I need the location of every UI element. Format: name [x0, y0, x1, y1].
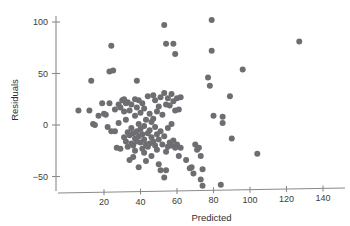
data-point — [227, 93, 233, 99]
data-point — [123, 117, 129, 123]
data-point — [143, 158, 149, 164]
data-point — [139, 131, 145, 137]
y-tick-label--50: −50 — [33, 172, 48, 182]
x-axis-title: Predicted — [191, 212, 231, 223]
y-tick-label-50: 50 — [38, 69, 48, 79]
data-point — [127, 108, 133, 114]
data-point — [205, 75, 211, 81]
data-point — [169, 121, 175, 127]
data-point — [178, 145, 184, 151]
data-point — [145, 93, 151, 99]
data-point — [141, 106, 147, 112]
data-point — [220, 114, 226, 120]
data-point — [132, 113, 138, 119]
data-point — [200, 166, 206, 172]
data-point — [92, 122, 98, 128]
data-point — [159, 112, 165, 118]
y-axis-title: Residuals — [9, 79, 20, 121]
data-point — [161, 90, 167, 96]
data-point — [209, 48, 215, 54]
data-point — [159, 142, 165, 148]
y-tick-label-0: 0 — [43, 120, 48, 130]
data-point — [211, 113, 217, 119]
data-point — [148, 153, 154, 159]
data-point — [161, 22, 167, 28]
data-point — [209, 17, 215, 23]
data-point — [96, 113, 102, 119]
data-point — [154, 147, 160, 153]
data-point — [130, 154, 136, 160]
data-point — [176, 107, 182, 113]
data-point — [110, 67, 116, 73]
data-point — [116, 120, 122, 126]
data-point — [121, 109, 127, 115]
data-point — [156, 161, 162, 167]
data-point — [163, 149, 169, 155]
data-point — [103, 112, 109, 118]
data-point — [123, 138, 129, 144]
data-point — [136, 121, 142, 127]
chart-canvas: 20406080100120140−50050100PredictedResid… — [0, 0, 350, 226]
x-tick-label-100: 100 — [242, 195, 257, 205]
data-point — [141, 150, 147, 156]
data-point — [139, 100, 145, 106]
x-tick-label-20: 20 — [99, 197, 109, 207]
data-point — [156, 103, 162, 109]
data-point — [150, 92, 156, 98]
data-point — [207, 83, 213, 89]
data-points — [75, 17, 302, 189]
data-point — [296, 39, 302, 45]
data-point — [176, 153, 182, 159]
data-point — [161, 133, 167, 139]
data-point — [169, 91, 175, 97]
x-axis-line — [58, 188, 345, 193]
data-point — [152, 124, 158, 130]
data-point — [229, 135, 235, 141]
data-point — [154, 109, 160, 115]
data-point — [134, 104, 140, 110]
data-point — [190, 170, 196, 176]
data-point — [141, 136, 147, 142]
data-point — [198, 153, 204, 159]
data-point — [163, 167, 169, 173]
data-point — [147, 111, 153, 117]
y-tick-label-100: 100 — [33, 17, 48, 27]
data-point — [147, 127, 153, 133]
data-point — [117, 146, 123, 152]
x-tick-label-40: 40 — [135, 197, 145, 207]
x-tick-label-80: 80 — [208, 195, 218, 205]
data-point — [161, 175, 167, 181]
data-point — [108, 43, 114, 49]
data-point — [99, 100, 105, 106]
data-point — [196, 145, 202, 151]
data-point — [141, 123, 147, 129]
data-point — [106, 100, 112, 106]
residual-scatter-plot: 20406080100120140−50050100PredictedResid… — [0, 0, 350, 226]
data-point — [136, 164, 142, 170]
data-point — [200, 183, 206, 189]
data-point — [220, 120, 226, 126]
data-point — [150, 116, 156, 122]
data-point — [163, 41, 169, 47]
data-point — [170, 41, 176, 47]
x-tick-label-140: 140 — [315, 193, 330, 203]
x-tick-label-60: 60 — [172, 196, 182, 206]
data-point — [86, 108, 92, 114]
data-point — [172, 51, 178, 57]
data-point — [183, 157, 189, 163]
data-point — [178, 94, 184, 100]
data-point — [254, 151, 260, 157]
data-point — [132, 148, 138, 154]
data-point — [240, 66, 246, 72]
data-point — [88, 78, 94, 84]
data-point — [112, 128, 118, 134]
data-point — [143, 117, 149, 123]
data-point — [152, 97, 158, 103]
x-tick-label-120: 120 — [279, 194, 294, 204]
data-point — [128, 101, 134, 107]
data-point — [189, 164, 195, 170]
data-point — [156, 136, 162, 142]
data-point — [218, 182, 224, 188]
data-point — [134, 78, 140, 84]
data-point — [112, 107, 118, 113]
